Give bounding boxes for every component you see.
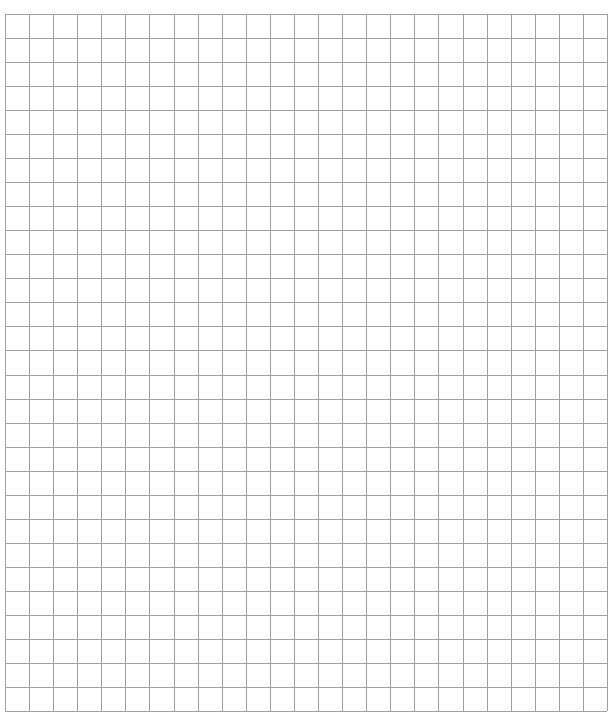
graph-paper-grid xyxy=(0,0,615,721)
